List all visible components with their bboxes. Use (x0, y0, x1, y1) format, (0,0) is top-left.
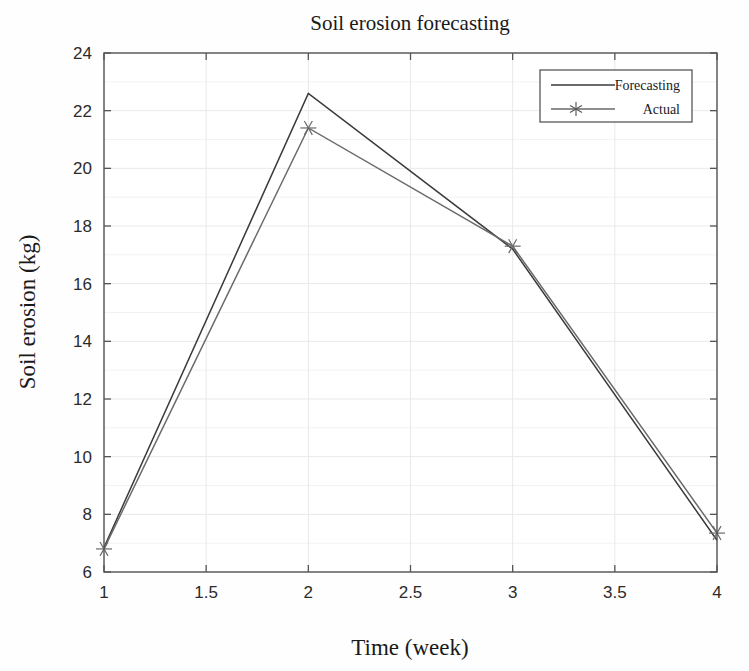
x-tick-label: 4 (712, 583, 721, 602)
legend-label-actual: Actual (643, 102, 680, 117)
y-tick-label: 10 (73, 448, 92, 467)
x-tick-label: 2 (304, 583, 313, 602)
x-tick-label: 3 (508, 583, 517, 602)
y-tick-label: 18 (73, 217, 92, 236)
x-tick-label: 1 (99, 583, 108, 602)
y-tick-label: 6 (83, 563, 92, 582)
y-tick-label: 14 (73, 332, 92, 351)
soil-erosion-line-chart: 68101214161820222411.522.533.54 Soil ero… (0, 0, 749, 671)
y-tick-label: 16 (73, 275, 92, 294)
y-tick-label: 12 (73, 390, 92, 409)
x-tick-label: 1.5 (194, 583, 218, 602)
y-tick-label: 20 (73, 159, 92, 178)
legend-label-forecasting: Forecasting (615, 78, 680, 93)
x-tick-label: 3.5 (603, 583, 627, 602)
legend: Forecasting Actual (540, 70, 692, 122)
y-tick-label: 24 (73, 44, 92, 63)
y-tick-label: 8 (83, 505, 92, 524)
x-tick-label: 2.5 (399, 583, 423, 602)
y-axis-title: Soil erosion (kg) (15, 235, 40, 390)
y-tick-label: 22 (73, 102, 92, 121)
x-axis-title: Time (week) (351, 635, 468, 660)
page-title: Soil erosion forecasting (310, 11, 510, 35)
chart-figure: 68101214161820222411.522.533.54 Soil ero… (0, 0, 749, 671)
